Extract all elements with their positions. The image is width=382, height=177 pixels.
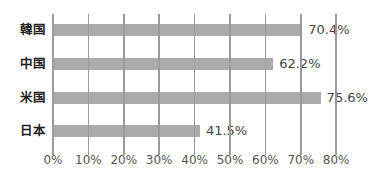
value-label: 41.5%: [206, 124, 247, 138]
gridline: [88, 14, 90, 155]
gridline: [123, 14, 125, 155]
x-tick-label: 0%: [33, 153, 73, 167]
gridline: [194, 14, 196, 155]
x-tick-label: 50%: [210, 153, 250, 167]
gridline: [300, 14, 302, 155]
horizontal-bar-chart: 韓国70.4%中国62.2%米国75.6%日本41.5%0%10%20%30%4…: [0, 0, 382, 177]
x-tick-label: 60%: [245, 153, 285, 167]
bar: [53, 92, 321, 104]
gridline: [265, 14, 267, 155]
value-label: 75.6%: [327, 91, 368, 105]
x-tick-label: 20%: [104, 153, 144, 167]
x-tick-label: 40%: [175, 153, 215, 167]
gridline: [335, 14, 337, 155]
category-label: 韓国: [0, 23, 46, 37]
x-tick-label: 70%: [281, 153, 321, 167]
x-tick-label: 30%: [139, 153, 179, 167]
x-tick-label: 10%: [68, 153, 108, 167]
category-label: 米国: [0, 91, 46, 105]
value-label: 70.4%: [308, 23, 349, 37]
gridline: [229, 14, 231, 155]
y-axis-line: [52, 14, 54, 155]
bar: [53, 125, 200, 137]
category-label: 日本: [0, 124, 46, 138]
bar: [53, 58, 273, 70]
gridline: [158, 14, 160, 155]
category-label: 中国: [0, 57, 46, 71]
x-tick-label: 80%: [316, 153, 356, 167]
